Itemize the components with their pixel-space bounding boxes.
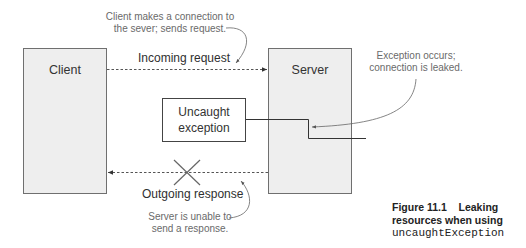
- uncaught-line1: Uncaught: [163, 105, 245, 119]
- figure-number: Figure 11.1: [392, 201, 447, 213]
- exception-annotation: Exception occurs; connection is leaked.: [366, 50, 466, 74]
- connect-annotation: Client makes a connection to the sever; …: [100, 11, 240, 35]
- caption-line1: Leaking: [459, 201, 499, 213]
- connect-annotation-line2: the sever; sends request.: [100, 23, 240, 35]
- exception-path-line: [245, 120, 366, 139]
- unable-annotation-line1: Server is unable to: [140, 211, 240, 223]
- uncaught-exception-node: Uncaught exception: [162, 98, 246, 142]
- connect-annotation-line1: Client makes a connection to: [100, 11, 240, 23]
- exception-annotation-arrow: [312, 79, 416, 127]
- exception-annotation-line1: Exception occurs;: [366, 50, 466, 62]
- incoming-request-label: Incoming request: [138, 51, 230, 65]
- outgoing-response-label: Outgoing response: [142, 187, 243, 201]
- uncaught-line2: exception: [163, 121, 245, 135]
- unable-annotation-line2: send a response.: [140, 223, 240, 235]
- caption-code: uncaughtException: [392, 227, 504, 240]
- caption-line2: resources when using: [392, 214, 504, 227]
- exception-annotation-line2: connection is leaked.: [366, 62, 466, 74]
- figure-caption: Figure 11.1 Leaking resources when using…: [392, 201, 504, 240]
- unable-annotation: Server is unable to send a response.: [140, 211, 240, 235]
